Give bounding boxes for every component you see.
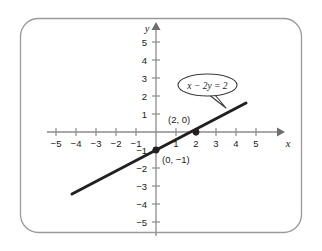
y-tick-label-1: 1 — [142, 109, 147, 120]
y-tick-label-4: 4 — [142, 55, 147, 66]
y-tick-label-neg4: −4 — [136, 199, 147, 210]
figure-container: −5 −4 −3 −2 −1 1 2 3 4 5 5 4 3 2 1 −1 −2… — [0, 0, 322, 251]
x-tick-label-4: 4 — [233, 138, 238, 149]
y-tick-label-2: 2 — [142, 91, 147, 102]
point-marker-y-intercept — [153, 147, 160, 154]
y-tick-label-neg2: −2 — [136, 163, 147, 174]
x-axis-label: x — [285, 138, 291, 149]
y-tick-label-neg3: −3 — [136, 181, 147, 192]
y-tick-label-3: 3 — [142, 73, 147, 84]
x-tick-label-neg5: −5 — [51, 138, 62, 149]
x-tick-label-neg2: −2 — [111, 138, 122, 149]
x-tick-label-2: 2 — [193, 138, 198, 149]
x-tick-label-5: 5 — [253, 138, 258, 149]
y-tick-label-5: 5 — [142, 37, 147, 48]
point-label-y-intercept: (0, −1) — [162, 154, 190, 165]
y-tick-label-neg1: −1 — [136, 145, 147, 156]
figure-frame — [21, 19, 302, 233]
y-tick-label-neg5: −5 — [136, 217, 147, 228]
callout-equation-text: x − 2y = 2 — [186, 81, 228, 91]
y-axis-label: y — [144, 23, 150, 34]
point-label-x-intercept: (2, 0) — [168, 114, 190, 125]
x-tick-label-neg3: −3 — [91, 138, 102, 149]
coordinate-plane-graph: −5 −4 −3 −2 −1 1 2 3 4 5 5 4 3 2 1 −1 −2… — [0, 0, 322, 251]
x-tick-label-neg4: −4 — [71, 138, 82, 149]
point-marker-x-intercept — [193, 129, 200, 136]
x-tick-label-3: 3 — [213, 138, 218, 149]
